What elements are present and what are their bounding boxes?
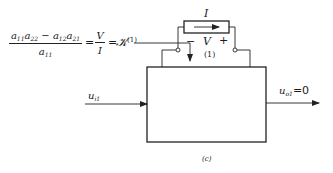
calligraphic-k-symbol: 𝒦(1) [116, 36, 137, 48]
output-label: uo1=0 [279, 85, 309, 97]
left-terminal [176, 48, 180, 52]
two-port-box [147, 67, 266, 142]
ratio-numerator: V [95, 30, 105, 43]
plus-label: + [219, 35, 228, 46]
figure-caption: (c) [202, 156, 211, 163]
equals-sign-1: = [85, 37, 94, 48]
minus-label: − [186, 36, 195, 47]
right-terminal [233, 48, 237, 52]
input-label: ui1 [88, 91, 100, 102]
equation-denominator: a11 [9, 44, 82, 58]
voltage-label: V [203, 36, 211, 47]
right-lead-wire [229, 27, 235, 48]
port-label: (1) [204, 51, 215, 59]
equation-fraction: a11a22 − a12a21 a11 [9, 30, 82, 58]
left-lead-wire [178, 27, 184, 48]
current-label: I [204, 8, 208, 19]
ratio-denominator: I [95, 43, 105, 56]
ratio-fraction: V I [95, 30, 105, 56]
equation-numerator: a11a22 − a12a21 [9, 30, 82, 44]
left-port-wire [162, 50, 176, 67]
right-port-wire [237, 50, 250, 67]
